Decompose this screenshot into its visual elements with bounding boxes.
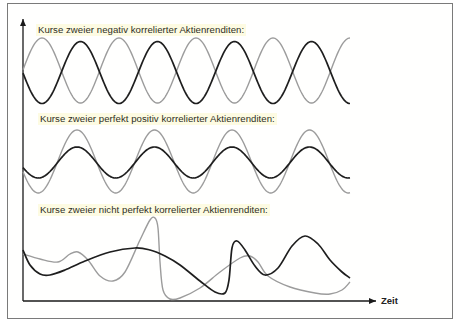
panel-title-positive: Kurse zweier perfekt positiv korrelierte… <box>38 113 277 125</box>
panel-title-negative: Kurse zweier negativ korrelierter Aktien… <box>36 24 246 36</box>
series-dark-line <box>23 147 350 178</box>
panel-negative-correlation <box>23 38 350 104</box>
series-light-line <box>23 217 350 300</box>
x-axis-label: Zeit <box>381 295 398 306</box>
panel-imperfect-correlation <box>23 217 350 300</box>
correlation-figure: Kurse zweier negativ korrelierter Aktien… <box>0 0 461 327</box>
panel-positive-correlation <box>23 130 350 193</box>
series-light-line <box>23 130 350 193</box>
plot-area <box>0 0 461 327</box>
series-dark-line <box>23 236 350 294</box>
panel-title-imperfect: Kurse zweier nicht perfekt korrelierter … <box>38 204 270 216</box>
